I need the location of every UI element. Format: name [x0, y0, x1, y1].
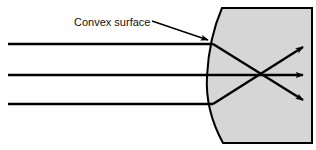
convex-surface-label: Convex surface: [74, 16, 150, 28]
ray-diagram-figure: Convex surface: [0, 0, 316, 150]
label-pointer-arrow: [152, 21, 208, 40]
diagram-canvas: Convex surface: [0, 0, 316, 150]
